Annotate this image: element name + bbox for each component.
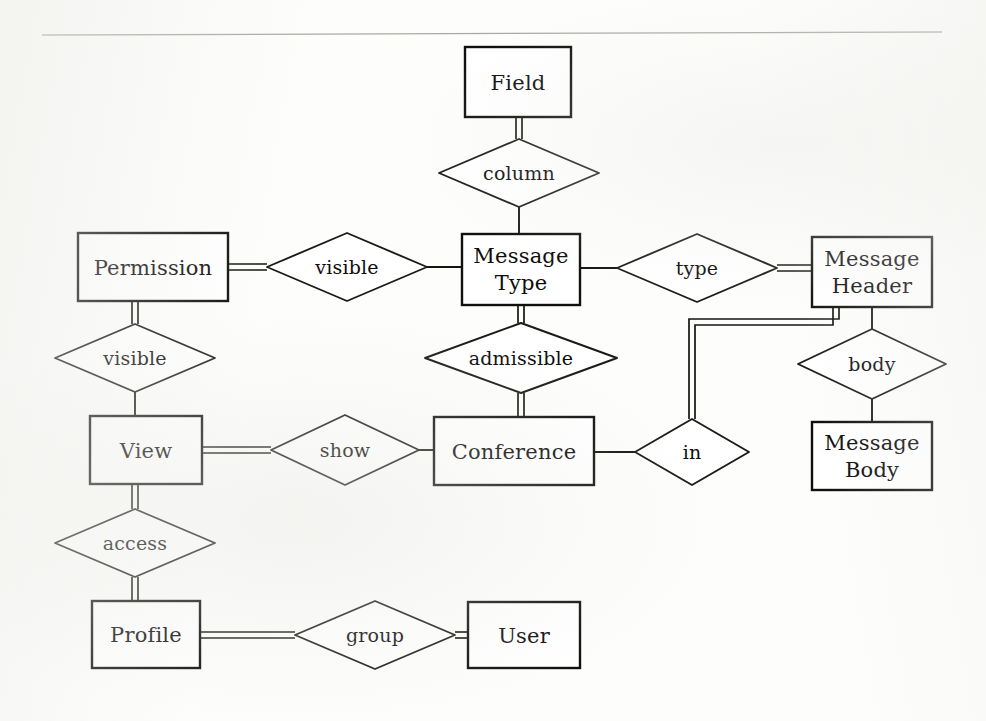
connector-messagetype-admissible bbox=[518, 305, 524, 323]
relationship-show[interactable]: show bbox=[271, 415, 419, 485]
entity-label-message-body-line2: Body bbox=[845, 458, 899, 482]
connector-field-column bbox=[516, 117, 522, 139]
connector-type-messageheader bbox=[777, 265, 812, 271]
entity-message-type[interactable]: Message Type bbox=[462, 234, 580, 305]
connector-view-access bbox=[132, 484, 138, 509]
connector-profile-group bbox=[200, 632, 295, 638]
entity-profile[interactable]: Profile bbox=[92, 601, 200, 668]
relationship-label-access: access bbox=[103, 532, 168, 554]
relationship-admissible[interactable]: admissible bbox=[425, 323, 617, 393]
relationship-label-in: in bbox=[683, 441, 702, 463]
connector-permission-visibleview bbox=[132, 301, 138, 324]
entity-label-view: View bbox=[119, 439, 173, 463]
relationship-label-type: type bbox=[676, 257, 719, 279]
entity-user[interactable]: User bbox=[468, 602, 580, 668]
entity-label-profile: Profile bbox=[110, 623, 182, 647]
relationship-label-body: body bbox=[848, 353, 895, 375]
entity-label-user: User bbox=[498, 624, 551, 648]
er-diagram-canvas: column visible type visible admissible b bbox=[0, 0, 986, 721]
entity-label-field: Field bbox=[491, 71, 546, 95]
relationship-visible-permission-messagetype[interactable]: visible bbox=[267, 233, 427, 301]
relationship-visible-permission-view[interactable]: visible bbox=[55, 324, 215, 392]
entity-view[interactable]: View bbox=[90, 416, 202, 484]
relationship-label-column: column bbox=[483, 162, 555, 184]
connector-access-profile bbox=[132, 577, 138, 601]
relationship-group[interactable]: group bbox=[295, 601, 455, 669]
connector-admissible-conference bbox=[518, 393, 524, 417]
connector-view-show bbox=[202, 447, 271, 453]
entity-label-message-body-line1: Message bbox=[824, 431, 919, 455]
connector-permission-visible bbox=[228, 264, 267, 270]
entity-conference[interactable]: Conference bbox=[434, 417, 594, 485]
entity-field[interactable]: Field bbox=[465, 47, 571, 117]
relationship-layer: column visible type visible admissible b bbox=[55, 139, 946, 669]
entity-label-message-type-line1: Message bbox=[473, 244, 568, 268]
relationship-column[interactable]: column bbox=[439, 139, 599, 207]
relationship-type[interactable]: type bbox=[617, 234, 777, 302]
entity-message-header[interactable]: Message Header bbox=[812, 237, 932, 307]
relationship-access[interactable]: access bbox=[55, 509, 215, 577]
relationship-body[interactable]: body bbox=[798, 329, 946, 399]
entity-label-message-header-line2: Header bbox=[832, 274, 913, 298]
scan-rule-line bbox=[42, 32, 942, 35]
relationship-label-group: group bbox=[346, 624, 404, 646]
entity-permission[interactable]: Permission bbox=[78, 233, 228, 301]
entity-message-body[interactable]: Message Body bbox=[812, 422, 932, 490]
er-diagram-svg: column visible type visible admissible b bbox=[0, 0, 986, 721]
relationship-label-admissible: admissible bbox=[469, 347, 574, 369]
relationship-label-show: show bbox=[320, 439, 371, 461]
entity-label-message-header-line1: Message bbox=[824, 247, 919, 271]
connector-group-user bbox=[455, 632, 468, 638]
relationship-in[interactable]: in bbox=[635, 419, 749, 485]
relationship-label-visible-left: visible bbox=[102, 347, 167, 369]
entity-label-message-type-line2: Type bbox=[495, 271, 548, 295]
entity-label-conference: Conference bbox=[452, 440, 577, 464]
entity-label-permission: Permission bbox=[94, 256, 213, 280]
relationship-label-visible-top: visible bbox=[314, 256, 379, 278]
